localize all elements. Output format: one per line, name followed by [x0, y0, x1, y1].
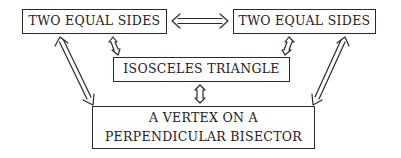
double-arrow-right-diagonal [312, 37, 349, 105]
small-arrow-topleft-to-middle [109, 37, 120, 55]
node-label: TWO EQUAL SIDES [29, 12, 161, 30]
node-label-line1: A VERTEX ON A [149, 109, 258, 127]
small-arrow-middle-to-bottom [195, 85, 205, 103]
small-arrow-topright-to-middle [282, 37, 294, 55]
double-arrow-top-horizontal [172, 14, 228, 28]
double-arrow-left-diagonal [55, 37, 94, 105]
node-isosceles-triangle: ISOSCELES TRIANGLE [113, 57, 290, 82]
node-label-line2: PERPENDICULAR BISECTOR [105, 128, 302, 146]
node-vertex-on-perpendicular-bisector: A VERTEX ON A PERPENDICULAR BISECTOR [92, 106, 315, 149]
node-label: TWO EQUAL SIDES [239, 12, 371, 30]
node-two-equal-sides-left: TWO EQUAL SIDES [22, 9, 167, 34]
node-two-equal-sides-right: TWO EQUAL SIDES [233, 9, 376, 34]
node-label: ISOSCELES TRIANGLE [123, 60, 279, 78]
